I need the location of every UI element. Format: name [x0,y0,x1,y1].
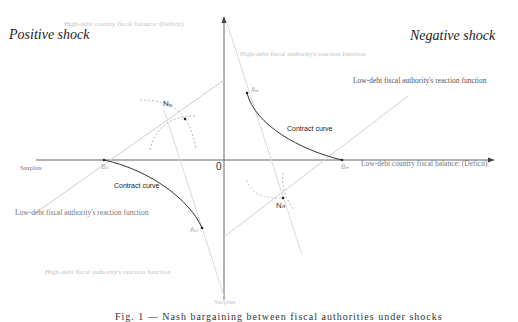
y-axis-bottom-label: Surplus [214,298,235,306]
point-an-label: Aₙ [251,86,259,94]
y-axis-arrow-icon [222,16,227,23]
ld-reaction-positive-label: Low-debt fiscal authority's reaction fun… [15,208,148,217]
origin-label: 0 [216,161,222,172]
x-axis-left-label: Surplus [20,164,41,172]
point-np-label: Nₚ [163,99,172,108]
positive-shock-label: Positive shock [9,27,89,43]
ld-reaction-negative-label: Low-debt fiscal authority's reaction fun… [353,76,486,85]
point-bp-label: Bₚ [101,163,109,171]
point-bn-marker [341,159,344,162]
x-axis-arrow-icon [488,158,495,163]
hd-reaction-line-negative [164,110,224,296]
point-ap-label: Aₚ [190,226,198,234]
point-ap-marker [201,227,204,230]
indifference-curve-nn-1 [247,180,286,198]
y-axis-top-label: High-debt country fiscal balance: (Defic… [64,20,183,28]
indifference-curve-np-2 [150,116,196,150]
contract-curve-positive-label: Contract curve [114,182,160,189]
point-np-marker [184,118,187,121]
x-axis-right-label: Low-debt country fiscal balance: (Defici… [361,159,488,168]
point-bn-label: Bₙ [341,163,349,171]
point-nn-label: Nₙ [276,201,285,210]
point-an-marker [246,92,249,95]
figure-caption: Fig. 1 — Nash bargaining between fiscal … [115,311,443,322]
contract-curve-negative-label: Contract curve [287,125,333,132]
negative-shock-label: Negative shock [410,28,495,44]
hd-reaction-positive-label: High-debt fiscal authority's reaction fu… [45,268,171,276]
point-nn-marker [282,197,285,200]
contract-curve-positive [104,160,202,228]
hd-reaction-negative-label: High-debt fiscal authority's reaction fu… [240,50,366,58]
point-bp-marker [103,159,106,162]
